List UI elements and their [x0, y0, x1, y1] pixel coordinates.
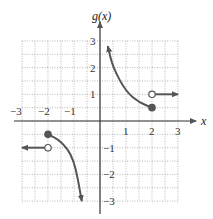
graph-canvas: x g(x) −3 −2 −1 1 2 3 3 2 1 −1 −2 −3	[0, 0, 213, 219]
series-line	[48, 134, 82, 201]
y-axis-label: g(x)	[92, 9, 111, 23]
x-tick-label: −3	[10, 105, 22, 117]
closed-endpoint	[45, 131, 51, 137]
x-tick-label: −2	[38, 105, 50, 117]
y-tick-label: −3	[103, 195, 115, 207]
x-tick-label: 3	[175, 125, 181, 137]
x-tick-label: 2	[149, 125, 155, 137]
x-tick-label: −1	[64, 105, 76, 117]
open-endpoint	[45, 145, 51, 151]
series-line	[108, 46, 152, 107]
closed-endpoint	[149, 104, 155, 110]
open-endpoint	[149, 91, 155, 97]
y-tick-label: 1	[90, 88, 96, 100]
y-tick-label: 3	[90, 35, 96, 47]
x-tick-label: 1	[123, 125, 129, 137]
x-axis-label: x	[200, 114, 207, 128]
y-tick-label: −2	[103, 168, 115, 180]
y-tick-label: −1	[103, 142, 115, 154]
y-tick-label: 2	[90, 62, 96, 74]
